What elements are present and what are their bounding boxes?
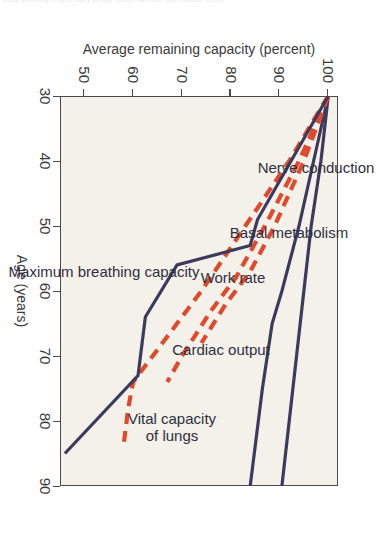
y-tick-60: [132, 89, 133, 96]
y-tick-label-100: 100: [320, 58, 337, 83]
y-tick-50: [83, 89, 84, 96]
y-tick-label-80: 80: [222, 66, 239, 83]
series-label-3: Cardiac output: [172, 341, 270, 358]
x-tick-label-80: 80: [37, 413, 54, 430]
x-tick-label-30: 30: [37, 88, 54, 105]
x-tick-80: [53, 421, 60, 422]
x-tick-label-60: 60: [37, 283, 54, 300]
series-label-1: Basal metabolism: [230, 224, 348, 241]
y-tick-80: [229, 89, 230, 96]
y-tick-90: [278, 89, 279, 96]
x-tick-50: [53, 226, 60, 227]
y-tick-label-60: 60: [125, 66, 142, 83]
x-tick-label-40: 40: [37, 153, 54, 170]
y-tick-label-50: 50: [76, 66, 93, 83]
x-tick-label-70: 70: [37, 348, 54, 365]
figure-rotated-container: 304050607080901009080706050 Nerve conduc…: [32, 41, 348, 511]
series-label-2: Work rate: [201, 270, 266, 287]
x-axis-title: Age (years): [14, 255, 30, 327]
caption-text: occur primarily in sedentary people (aft…: [0, 0, 381, 3]
x-tick-90: [53, 486, 60, 487]
y-tick-label-70: 70: [173, 66, 190, 83]
y-tick-100: [327, 89, 328, 96]
y-axis-title: Average remaining capacity (percent): [83, 41, 315, 57]
y-tick-70: [181, 89, 182, 96]
series-label-0: Nerve conduction: [258, 159, 375, 176]
x-tick-label-90: 90: [37, 478, 54, 495]
series-path-2: [201, 96, 328, 343]
y-tick-label-90: 90: [271, 66, 288, 83]
x-tick-30: [53, 96, 60, 97]
series-label-4: Vital capacity of lungs: [128, 411, 216, 445]
x-tick-70: [53, 356, 60, 357]
cropped-caption: occur primarily in sedentary people (aft…: [0, 0, 381, 13]
x-tick-40: [53, 161, 60, 162]
series-label-5: Maximum breathing capacity: [8, 263, 199, 280]
x-tick-60: [53, 291, 60, 292]
x-tick-label-50: 50: [37, 218, 54, 235]
